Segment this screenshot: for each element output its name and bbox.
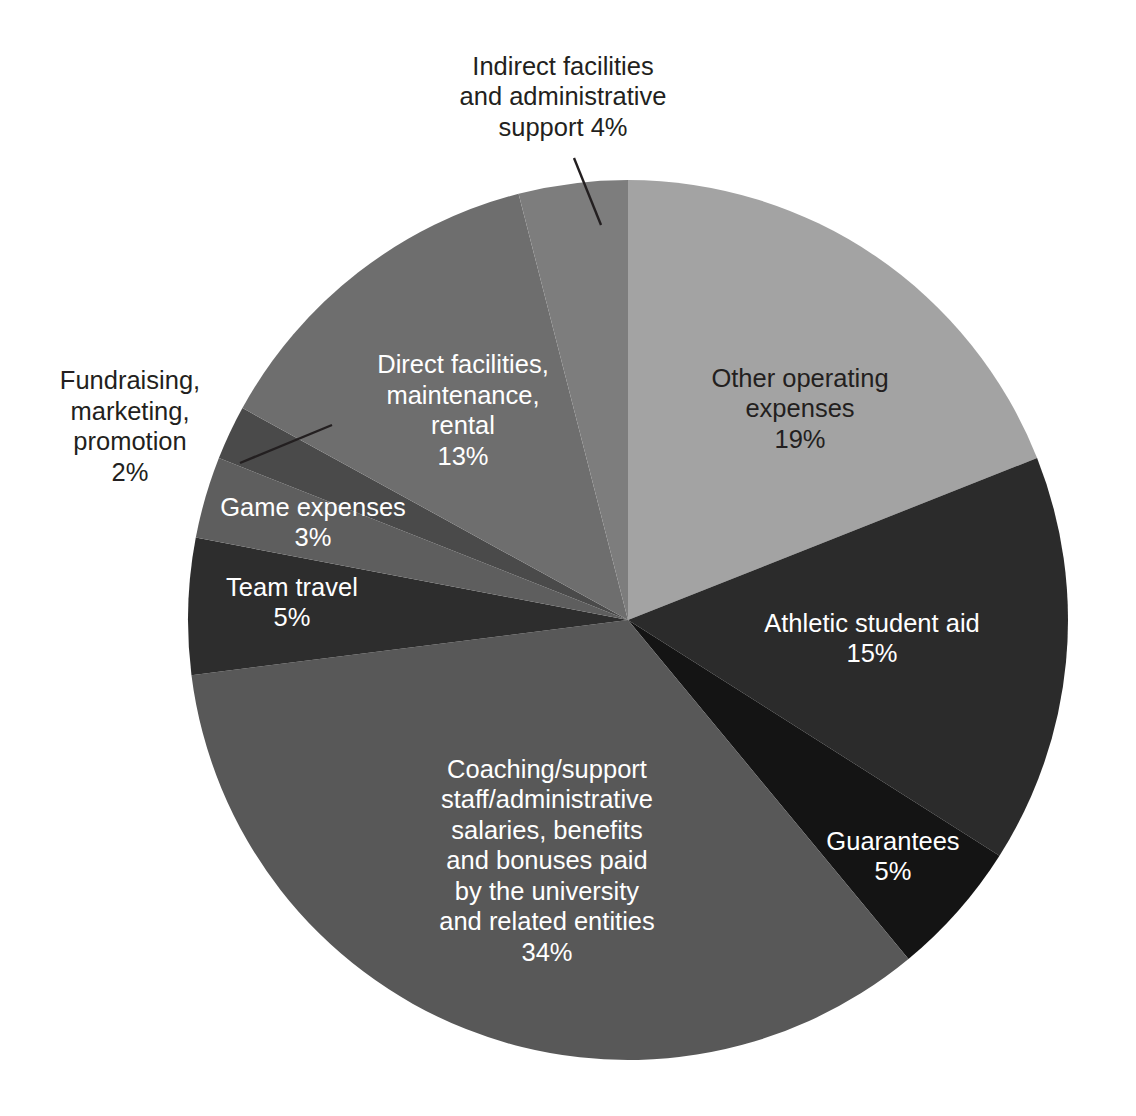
pie-slice-label-line: and bonuses paid <box>446 846 647 874</box>
pie-slice-label-line: Team travel <box>226 572 358 600</box>
pie-slice-label-line: 5% <box>875 857 912 885</box>
pie-chart-svg: Other operatingexpenses19%Athletic stude… <box>0 0 1136 1116</box>
pie-chart: Other operatingexpenses19%Athletic stude… <box>0 0 1136 1116</box>
pie-slice-label-line: Indirect facilities <box>472 51 653 79</box>
pie-slice-label-line: 3% <box>295 523 332 551</box>
pie-slice-label-line: promotion <box>73 427 186 455</box>
pie-slice-label: Indirect facilitiesand administrativesup… <box>460 51 667 140</box>
pie-slice-label-line: and related entities <box>439 907 654 935</box>
pie-slice-label-line: maintenance, <box>386 380 539 408</box>
pie-slice-label-line: 13% <box>437 441 488 469</box>
pie-slice-label-line: and administrative <box>460 82 667 110</box>
pie-slice-label-line: 15% <box>846 639 897 667</box>
pie-slice-label-line: 2% <box>112 457 149 485</box>
pie-slice-label-line: Coaching/support <box>447 754 647 782</box>
pie-slice-label-line: Fundraising, <box>60 366 200 394</box>
pie-slice-label-line: Guarantees <box>826 826 959 854</box>
pie-slice-label-line: expenses <box>745 394 854 422</box>
pie-slice-label-line: Athletic student aid <box>764 608 979 636</box>
pie-slice-label-line: Direct facilities, <box>377 350 548 378</box>
pie-slice-label-line: salaries, benefits <box>451 815 642 843</box>
pie-slice-label-line: staff/administrative <box>441 785 653 813</box>
pie-slice-label-line: 34% <box>521 937 572 965</box>
pie-slice-label: Fundraising,marketing,promotion2% <box>60 366 200 486</box>
pie-slice-label-line: rental <box>431 411 495 439</box>
pie-slice-label-line: by the university <box>455 876 640 904</box>
pie-slice-label-line: marketing, <box>70 396 189 424</box>
pie-slice-label-line: 19% <box>774 424 825 452</box>
pie-slice-label-line: support 4% <box>499 112 628 140</box>
pie-slice-label-line: Game expenses <box>220 492 406 520</box>
pie-slice-label-line: Other operating <box>711 363 888 391</box>
pie-slice-label-line: 5% <box>274 603 311 631</box>
pie-slice-label: Coaching/supportstaff/administrativesala… <box>439 754 654 965</box>
